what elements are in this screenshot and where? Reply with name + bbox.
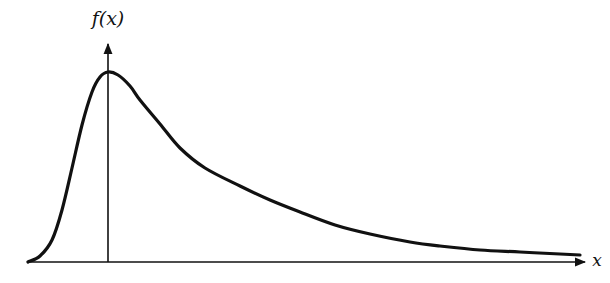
y-axis-label: f(x) — [90, 7, 125, 29]
density-diagram: f(x) x — [0, 0, 610, 283]
x-axis-label: x — [592, 250, 602, 270]
density-curve — [28, 72, 580, 262]
